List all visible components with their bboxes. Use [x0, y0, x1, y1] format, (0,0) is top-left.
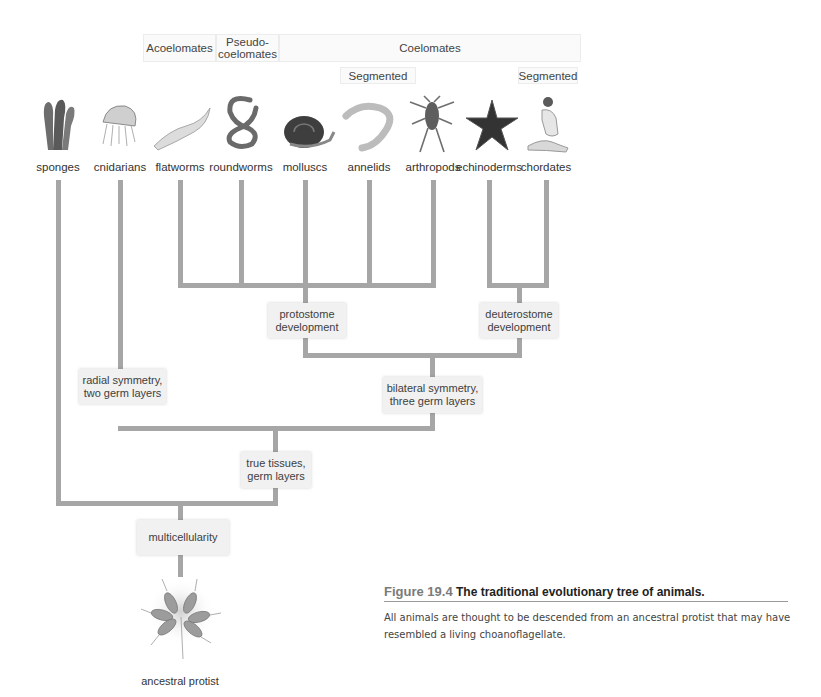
- node-protostome-development: protostome development: [268, 303, 346, 338]
- branch-cnidarians: [118, 180, 123, 370]
- branch-protostome-bar: [178, 283, 436, 288]
- node-bilateral-symmetry: bilateral symmetry, three germ layers: [383, 377, 482, 413]
- crustacean-icon: [404, 94, 460, 156]
- header-coelomates: Coelomates: [279, 34, 581, 62]
- starfish-icon: [464, 98, 520, 154]
- branch-annelids: [367, 180, 372, 288]
- header-acoelomates: Acoelomates: [143, 34, 216, 62]
- header-segmented-protostome: Segmented: [340, 67, 416, 84]
- sponge-icon: [38, 96, 80, 152]
- figure-caption-title: Figure 19.4 The traditional evolutionary…: [384, 584, 705, 599]
- branch-flatworms: [178, 180, 183, 288]
- header-segmented-chordates: Segmented: [518, 67, 578, 84]
- header-pseudocoelomates: Pseudo- coelomates: [216, 34, 279, 62]
- figure-caption-body: All animals are thought to be descended …: [384, 609, 794, 643]
- roundworm-icon: [220, 94, 264, 152]
- figure-title: The traditional evolutionary tree of ani…: [456, 585, 705, 599]
- ancestral-protist-label: ancestral protist: [120, 675, 240, 687]
- branch-metazoa-bar: [56, 501, 278, 506]
- figure-number: Figure 19.4: [384, 584, 453, 599]
- flatworm-icon: [150, 104, 214, 152]
- caption-divider: [384, 601, 788, 602]
- snail-icon: [280, 110, 336, 152]
- node-deuterostome-development: deuterostome development: [480, 303, 558, 338]
- branch-arthropods: [431, 180, 436, 288]
- taxon-label-chordates: chordates: [506, 161, 586, 173]
- node-true-tissues: true tissues, germ layers: [241, 452, 311, 488]
- human-icon: [522, 94, 572, 154]
- branch-chordates: [544, 180, 549, 288]
- branch-echinoderms: [487, 180, 492, 288]
- earthworm-icon: [340, 102, 400, 154]
- node-multicellularity: multicellularity: [137, 520, 229, 555]
- branch-roundworms: [239, 180, 244, 288]
- jellyfish-icon: [97, 100, 141, 150]
- node-radial-symmetry: radial symmetry, two germ layers: [79, 369, 166, 404]
- choanoflagellate-colony-icon: [135, 575, 227, 667]
- branch-sponges: [56, 180, 61, 506]
- branch-bilateral-bar: [303, 353, 522, 358]
